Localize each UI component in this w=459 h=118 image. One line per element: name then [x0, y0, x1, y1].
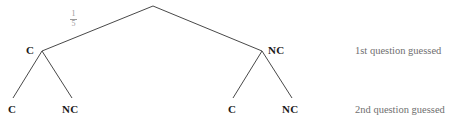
node-level2-left-correct: C — [8, 104, 16, 115]
edge-root-to-c — [42, 6, 153, 51]
caption-first-question: 1st question guessed — [355, 46, 441, 57]
edge-nc-to-nc — [262, 51, 292, 98]
tree-branches-graphic — [0, 0, 459, 118]
node-level2-right-not-correct: NC — [282, 104, 298, 115]
node-level1-correct: C — [26, 45, 34, 56]
node-level1-not-correct: NC — [268, 45, 284, 56]
root-to-left-branch-probability-label: 1 5 — [70, 10, 77, 29]
fraction-numerator: 1 — [70, 10, 77, 18]
edge-nc-to-c — [233, 51, 262, 98]
edge-c-to-c — [13, 51, 42, 98]
probability-tree-diagram: 1 5 C NC C NC C NC 1st question guessed … — [0, 0, 459, 118]
fraction-denominator: 5 — [70, 20, 77, 28]
caption-second-question: 2nd question guessed — [355, 105, 445, 116]
edge-root-to-nc — [153, 6, 262, 51]
node-level2-left-not-correct: NC — [62, 104, 78, 115]
edge-c-to-nc — [42, 51, 72, 98]
node-level2-right-correct: C — [228, 104, 236, 115]
